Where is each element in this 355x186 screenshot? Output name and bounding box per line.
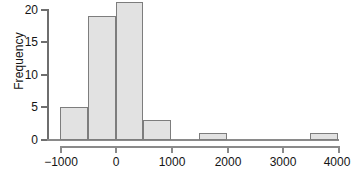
x-axis-rule: [60, 146, 339, 148]
x-tick-0: [115, 146, 117, 153]
x-tick-label-0: 0: [86, 155, 146, 169]
x-tick-2000: [227, 146, 229, 153]
x-tick-label-1000: 1000: [142, 155, 202, 169]
x-tick-1000: [171, 146, 173, 153]
x-tick-label-3000: 3000: [253, 155, 313, 169]
histogram-bar: [88, 16, 116, 140]
y-tick-15: [41, 41, 47, 43]
x-tick-label--1000: −1000: [31, 155, 91, 169]
y-tick-label-20: 20: [12, 3, 38, 17]
x-tick--1000: [60, 146, 62, 153]
histogram-bar: [116, 2, 144, 140]
y-tick-20: [41, 9, 47, 11]
y-tick-label-0: 0: [12, 133, 38, 147]
x-tick-4000: [338, 146, 340, 153]
y-axis-line: [47, 9, 49, 140]
y-tick-5: [41, 106, 47, 108]
y-tick-10: [41, 74, 47, 76]
histogram-bar: [60, 107, 88, 140]
histogram-bar: [143, 120, 171, 140]
x-tick-3000: [282, 146, 284, 153]
histogram-bar: [310, 133, 338, 140]
x-tick-label-4000: 4000: [307, 155, 355, 169]
y-tick-label-15: 15: [12, 35, 38, 49]
y-axis-title: Frequency: [12, 11, 26, 111]
y-tick-label-5: 5: [12, 100, 38, 114]
x-tick-label-2000: 2000: [198, 155, 258, 169]
histogram-bar: [199, 133, 227, 140]
y-tick-0: [41, 139, 47, 141]
y-tick-label-10: 10: [12, 68, 38, 82]
